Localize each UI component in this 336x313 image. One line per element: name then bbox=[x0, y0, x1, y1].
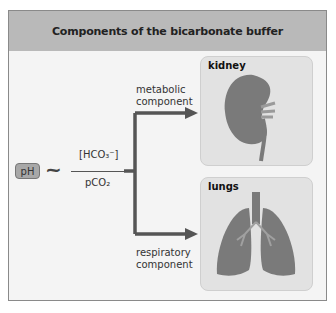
kidney-panel: kidney bbox=[200, 56, 313, 166]
lungs-icon bbox=[201, 178, 314, 292]
diagram-frame: Components of the bicarbonate buffer pH … bbox=[8, 10, 327, 301]
lungs-panel: lungs bbox=[200, 177, 313, 291]
respiratory-label: respiratory component bbox=[136, 247, 193, 271]
kidney-icon bbox=[201, 57, 314, 167]
metabolic-label: metabolic component bbox=[136, 84, 193, 108]
